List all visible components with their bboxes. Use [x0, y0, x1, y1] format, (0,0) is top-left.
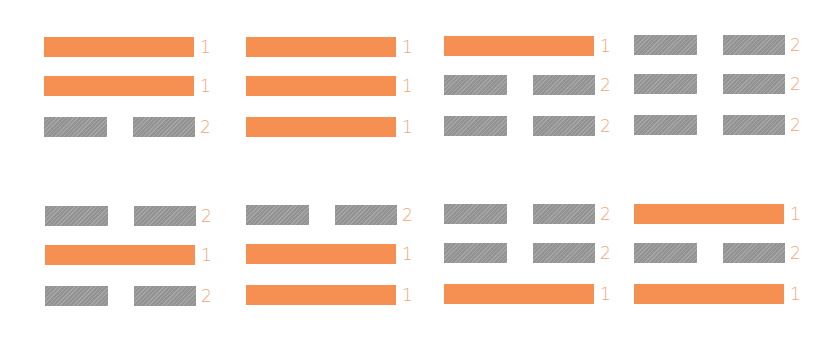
solid-bar [44, 37, 194, 57]
line-value-label: 1 [600, 35, 611, 57]
solid-bar [45, 245, 195, 265]
broken-line: 2 [444, 75, 596, 95]
line-value-label: 2 [200, 116, 211, 138]
solid-bar [246, 37, 396, 57]
line-value-label: 2 [600, 242, 611, 264]
broken-bar-segment [533, 204, 595, 224]
solid-line: 1 [444, 36, 596, 56]
line-value-label: 1 [201, 244, 212, 266]
solid-line: 1 [246, 117, 398, 137]
solid-line: 1 [246, 37, 398, 57]
trigram-3: 122 [444, 36, 619, 140]
solid-bar [246, 76, 396, 96]
solid-bar [246, 285, 396, 305]
line-value-label: 2 [790, 242, 801, 264]
broken-bar-segment [634, 35, 697, 55]
broken-bar-segment [723, 35, 785, 55]
broken-bar-segment [533, 116, 595, 136]
trigram-8: 121 [634, 204, 809, 308]
solid-line: 1 [246, 244, 398, 264]
solid-bar [634, 204, 784, 224]
broken-bar-segment [444, 243, 507, 263]
broken-bar-segment [45, 286, 108, 306]
trigram-7: 221 [444, 204, 619, 308]
broken-line: 2 [634, 35, 786, 55]
broken-bar-segment [44, 117, 107, 137]
solid-line: 1 [634, 204, 786, 224]
trigram-6: 211 [246, 205, 421, 309]
broken-bar-segment [634, 74, 697, 94]
solid-line: 1 [44, 37, 196, 57]
broken-bar-segment [634, 115, 697, 135]
line-value-label: 1 [600, 283, 611, 305]
solid-bar [634, 284, 784, 304]
broken-bar-segment [723, 243, 785, 263]
line-value-label: 2 [790, 73, 801, 95]
broken-bar-segment [444, 204, 507, 224]
broken-bar-segment [133, 117, 195, 137]
broken-line: 2 [45, 286, 197, 306]
line-value-label: 2 [790, 114, 801, 136]
line-value-label: 1 [200, 75, 211, 97]
broken-bar-segment [444, 116, 507, 136]
broken-bar-segment [45, 206, 108, 226]
line-value-label: 2 [600, 203, 611, 225]
solid-bar [246, 244, 396, 264]
broken-line: 2 [444, 116, 596, 136]
broken-line: 2 [246, 205, 398, 225]
trigram-4: 222 [634, 35, 809, 139]
broken-line: 2 [44, 117, 196, 137]
line-value-label: 1 [402, 243, 413, 265]
line-value-label: 1 [790, 203, 801, 225]
solid-bar [444, 284, 594, 304]
line-value-label: 2 [600, 115, 611, 137]
broken-bar-segment [134, 206, 196, 226]
solid-bar [246, 117, 396, 137]
broken-line: 2 [634, 115, 786, 135]
line-value-label: 2 [790, 34, 801, 56]
broken-bar-segment [723, 115, 785, 135]
broken-bar-segment [533, 243, 595, 263]
line-value-label: 1 [200, 36, 211, 58]
broken-bar-segment [634, 243, 697, 263]
solid-bar [444, 36, 594, 56]
broken-line: 2 [444, 243, 596, 263]
broken-bar-segment [533, 75, 595, 95]
line-value-label: 2 [201, 285, 212, 307]
trigram-1: 112 [44, 37, 219, 141]
line-value-label: 1 [402, 284, 413, 306]
broken-line: 2 [45, 206, 197, 226]
broken-bar-segment [444, 75, 507, 95]
line-value-label: 1 [790, 283, 801, 305]
broken-line: 2 [634, 74, 786, 94]
line-value-label: 1 [402, 116, 413, 138]
broken-line: 2 [444, 204, 596, 224]
line-value-label: 2 [402, 204, 413, 226]
line-value-label: 1 [402, 75, 413, 97]
broken-bar-segment [134, 286, 196, 306]
solid-line: 1 [634, 284, 786, 304]
solid-line: 1 [246, 285, 398, 305]
solid-line: 1 [246, 76, 398, 96]
trigram-5: 212 [45, 206, 220, 310]
broken-bar-segment [723, 74, 785, 94]
broken-bar-segment [335, 205, 397, 225]
line-value-label: 2 [600, 74, 611, 96]
solid-line: 1 [45, 245, 197, 265]
broken-bar-segment [246, 205, 309, 225]
solid-line: 1 [444, 284, 596, 304]
solid-bar [44, 76, 194, 96]
line-value-label: 1 [402, 36, 413, 58]
line-value-label: 2 [201, 205, 212, 227]
solid-line: 1 [44, 76, 196, 96]
broken-line: 2 [634, 243, 786, 263]
trigram-2: 111 [246, 37, 421, 141]
